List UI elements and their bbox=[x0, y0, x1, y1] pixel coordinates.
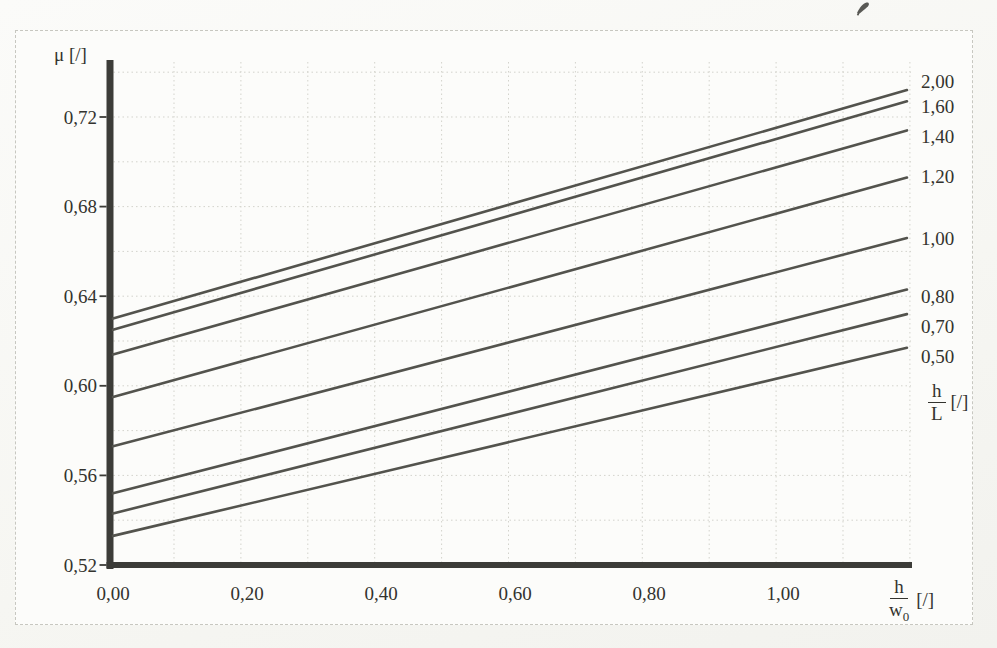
y-tick-label: 0,60 bbox=[64, 375, 97, 396]
series-line bbox=[113, 90, 907, 318]
y-tick-label: 0,64 bbox=[64, 286, 98, 307]
series-line bbox=[113, 101, 907, 329]
x-tick-label: 0,00 bbox=[96, 583, 129, 604]
series-label: 2,00 bbox=[921, 71, 954, 92]
ink-mark-dot-icon bbox=[857, 13, 859, 15]
x-tick-label: 0,40 bbox=[364, 583, 397, 604]
y-axis-label: μ [/] bbox=[54, 45, 87, 65]
series-label: 0,70 bbox=[921, 316, 954, 337]
y-axis-tick bbox=[100, 475, 107, 477]
series-line bbox=[113, 348, 907, 536]
series-label: 1,60 bbox=[921, 96, 954, 117]
param-fraction-denominator: L bbox=[929, 403, 945, 424]
param-unit: [/] bbox=[951, 392, 969, 412]
y-axis-tick bbox=[100, 564, 107, 566]
x-axis-fraction-denominator: w0 bbox=[887, 599, 911, 623]
x-axis-line bbox=[107, 562, 913, 568]
chart-canvas: 2,001,601,401,201,000,800,700,500,000,20… bbox=[0, 0, 997, 648]
param-fraction-numerator: h bbox=[928, 381, 946, 403]
y-tick-label: 0,52 bbox=[64, 555, 97, 576]
param-fraction: h L bbox=[928, 381, 946, 424]
x-axis-label: h w0 [/] bbox=[887, 577, 934, 623]
series-label: 1,00 bbox=[921, 228, 954, 249]
x-axis-fraction: h w0 bbox=[887, 577, 911, 623]
series-label: 1,40 bbox=[921, 126, 954, 147]
y-axis-tick bbox=[100, 295, 107, 297]
y-tick-label: 0,68 bbox=[64, 196, 97, 217]
ink-mark-icon bbox=[857, 2, 869, 14]
series-label: 0,80 bbox=[921, 286, 954, 307]
y-tick-label: 0,56 bbox=[64, 465, 97, 486]
y-axis-tick bbox=[100, 206, 107, 208]
series-line bbox=[113, 177, 907, 397]
x-tick-label: 0,60 bbox=[498, 583, 531, 604]
x-axis-unit: [/] bbox=[916, 590, 934, 610]
x-tick-label: 0,20 bbox=[230, 583, 263, 604]
param-axis-label: h L [/] bbox=[928, 381, 968, 424]
series-label: 0,50 bbox=[921, 346, 954, 367]
y-axis-tick bbox=[100, 385, 107, 387]
series-label: 1,20 bbox=[921, 166, 954, 187]
y-axis-tick bbox=[100, 116, 107, 118]
x-tick-label: 1,00 bbox=[766, 583, 799, 604]
y-tick-label: 0,72 bbox=[64, 107, 97, 128]
x-tick-label: 0,80 bbox=[632, 583, 665, 604]
x-axis-fraction-numerator: h bbox=[890, 577, 908, 599]
